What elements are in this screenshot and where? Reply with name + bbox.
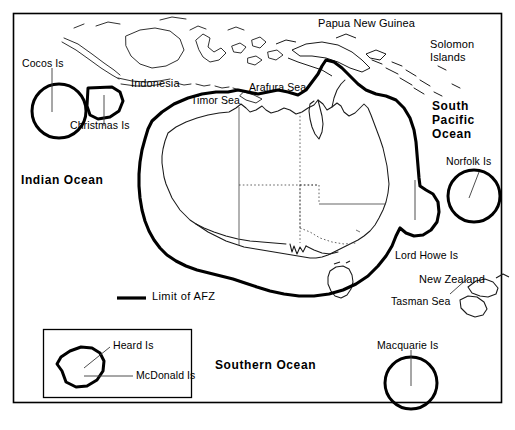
label-indonesia: Indonesia (131, 78, 180, 90)
label-timor-sea: Timor Sea (191, 95, 240, 106)
label-cocos-is: Cocos Is (22, 58, 64, 69)
label-solomon-islands: Solomon Islands (430, 38, 474, 64)
label-papua-new-guinea: Papua New Guinea (318, 18, 415, 30)
label-south-pacific-line3: Ocean (432, 127, 475, 141)
afz-map: Cocos Is Christmas Is Indonesia Papua Ne… (0, 0, 515, 430)
label-south-pacific-line1: South (432, 99, 475, 113)
label-mcdonald-is: McDonald Is (136, 370, 195, 381)
label-norfolk-is: Norfolk Is (446, 156, 491, 167)
label-new-zealand: New Zealand (419, 274, 485, 286)
label-south-pacific-line2: Pacific (432, 113, 475, 127)
legend-label-limit-of-afz: Limit of AFZ (152, 291, 215, 303)
label-christmas-is: Christmas Is (70, 120, 130, 131)
label-arafura-sea: Arafura Sea (249, 82, 306, 93)
label-south-pacific-ocean: South Pacific Ocean (432, 99, 475, 141)
label-lord-howe-is: Lord Howe Is (395, 250, 458, 261)
label-solomon-islands-line2: Islands (430, 51, 474, 64)
label-tasman-sea: Tasman Sea (391, 296, 450, 307)
label-southern-ocean: Southern Ocean (215, 359, 316, 372)
label-macquarie-is: Macquarie Is (377, 340, 438, 351)
label-heard-is: Heard Is (113, 340, 153, 351)
label-solomon-islands-line1: Solomon (430, 38, 474, 51)
label-indian-ocean: Indian Ocean (21, 174, 104, 187)
